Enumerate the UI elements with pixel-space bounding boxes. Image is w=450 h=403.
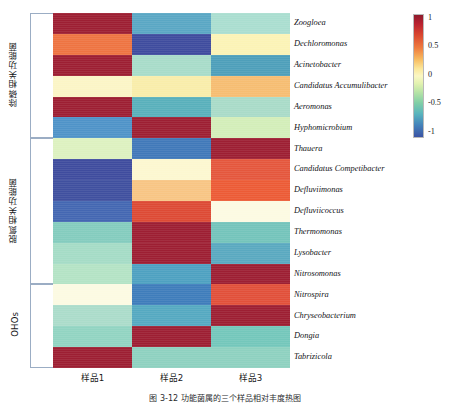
figure-caption: 图 3-12 功能菌属的三个样品相对丰度热图 <box>0 392 450 403</box>
row-label: Defluviimonas <box>294 186 343 194</box>
heatmap-cell <box>53 159 132 180</box>
row-label: Aeromonas <box>294 103 332 111</box>
heatmap-cell <box>132 264 211 285</box>
heatmap-cell <box>53 55 132 76</box>
heatmap-cell <box>53 117 132 138</box>
heatmap-cell <box>53 243 132 264</box>
row-label: Dongia <box>294 332 319 340</box>
heatmap-cell <box>132 222 211 243</box>
heatmap-cell <box>211 180 290 201</box>
heatmap-cell <box>53 264 132 285</box>
heatmap-cell <box>211 34 290 55</box>
row-label: Nitrosomonas <box>294 270 341 278</box>
heatmap-cell <box>132 159 211 180</box>
heatmap-cell <box>53 13 132 34</box>
heatmap-cell <box>211 55 290 76</box>
heatmap-cell <box>132 347 211 368</box>
column-label: 样品1 <box>53 371 132 383</box>
colorbar <box>413 14 424 138</box>
heatmap-cell <box>53 180 132 201</box>
colorbar-tick-label: 0 <box>428 71 432 79</box>
heatmap-cell <box>211 159 290 180</box>
heatmap-cell <box>132 138 211 159</box>
heatmap-cell <box>132 55 211 76</box>
row-label: Lysobacter <box>294 249 331 257</box>
group-bracket <box>30 13 53 138</box>
row-label: Defluviicoccus <box>294 207 344 215</box>
heatmap-cell <box>132 117 211 138</box>
heatmap-cell <box>211 264 290 285</box>
heatmap-cell <box>132 243 211 264</box>
heatmap-cell <box>211 305 290 326</box>
heatmap-cell <box>211 97 290 118</box>
heatmap-cell <box>132 97 211 118</box>
heatmap-cell <box>132 201 211 222</box>
heatmap-cell <box>211 347 290 368</box>
row-label: Hyphomicrobium <box>294 124 352 132</box>
heatmap-cell <box>53 284 132 305</box>
row-label: Candidatus Accumulibacter <box>294 82 388 90</box>
group-bracket <box>30 138 53 284</box>
heatmap-cell <box>132 326 211 347</box>
row-label: Acinetobacter <box>294 61 341 69</box>
heatmap-cell <box>132 305 211 326</box>
heatmap-grid <box>53 13 290 368</box>
heatmap-cell <box>211 326 290 347</box>
heatmap-cell <box>132 76 211 97</box>
heatmap-cell <box>211 201 290 222</box>
row-label: Thermomonas <box>294 228 342 236</box>
row-label: Candidatus Competibacter <box>294 165 385 173</box>
heatmap-cell <box>211 13 290 34</box>
heatmap-cell <box>132 180 211 201</box>
heatmap-cell <box>211 76 290 97</box>
heatmap-cell <box>53 326 132 347</box>
heatmap-cell <box>211 243 290 264</box>
heatmap-cell <box>132 284 211 305</box>
colorbar-tick-label: -0.5 <box>428 99 441 107</box>
heatmap-cell <box>53 347 132 368</box>
column-label: 样品2 <box>132 371 211 383</box>
heatmap-cell <box>53 305 132 326</box>
group-label: 除磷相关功能菌 <box>10 44 19 107</box>
heatmap-cell <box>211 222 290 243</box>
heatmap-cell <box>53 138 132 159</box>
heatmap-cell <box>53 222 132 243</box>
heatmap-cell <box>53 76 132 97</box>
colorbar-tick-label: 1 <box>428 14 432 22</box>
group-label: 脱氮相关功能菌 <box>10 180 19 243</box>
row-label: Chryseobacterium <box>294 312 356 320</box>
heatmap-cell <box>132 13 211 34</box>
colorbar-gradient <box>413 14 424 138</box>
heatmap-cell <box>211 138 290 159</box>
heatmap-cell <box>53 34 132 55</box>
row-label: Zoogloea <box>294 19 326 27</box>
group-bracket <box>30 284 53 368</box>
row-label: Tabrizicola <box>294 353 332 361</box>
heatmap-cell <box>53 201 132 222</box>
group-label: OHOs <box>11 311 20 337</box>
heatmap-cell <box>132 34 211 55</box>
heatmap-cell <box>211 117 290 138</box>
heatmap-cell <box>211 284 290 305</box>
row-label: Nitrospira <box>294 291 329 299</box>
row-label: Thauera <box>294 145 322 153</box>
heatmap-cell <box>53 97 132 118</box>
colorbar-tick-label: -1 <box>428 128 435 136</box>
row-label: Dechloromonas <box>294 40 347 48</box>
column-label: 样品3 <box>211 371 290 383</box>
colorbar-tick-label: 0.5 <box>428 42 438 50</box>
